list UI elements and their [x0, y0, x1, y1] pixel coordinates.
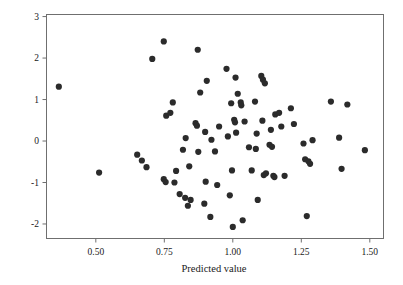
data-point	[269, 144, 275, 150]
data-point	[167, 110, 173, 116]
data-point	[229, 167, 235, 173]
data-point	[201, 201, 207, 207]
data-point	[300, 140, 306, 146]
data-point	[208, 137, 214, 143]
data-point	[203, 179, 209, 185]
data-point	[207, 214, 213, 220]
data-point	[96, 169, 102, 175]
data-point	[216, 123, 222, 129]
data-point	[255, 197, 261, 203]
data-point	[328, 99, 334, 105]
data-point	[232, 119, 238, 125]
data-point	[253, 146, 259, 152]
data-point	[170, 99, 176, 105]
data-point	[268, 127, 274, 133]
data-point	[186, 163, 192, 169]
plot-canvas: 0.500.751.001.251.50 3210-1-2 Predicted …	[0, 0, 403, 285]
data-point	[291, 121, 297, 127]
x-axis-ticks: 0.500.751.001.251.50	[88, 239, 379, 257]
x-axis-title: Predicted value	[181, 263, 246, 274]
data-point	[171, 179, 177, 185]
data-point	[307, 161, 313, 167]
x-tick-label: 1.50	[361, 247, 378, 257]
data-point	[227, 192, 233, 198]
data-point	[56, 84, 62, 90]
data-point	[139, 157, 145, 163]
data-point	[288, 105, 294, 111]
data-point	[241, 118, 247, 124]
data-point	[240, 217, 246, 223]
y-tick-label: 3	[34, 12, 39, 22]
data-point	[185, 203, 191, 209]
data-point	[338, 166, 344, 172]
data-points-layer	[56, 38, 368, 230]
data-point	[180, 147, 186, 153]
data-point	[188, 197, 194, 203]
y-tick-label: 2	[34, 53, 39, 63]
y-tick-label: -2	[31, 219, 39, 229]
x-tick-label: 0.75	[156, 247, 173, 257]
data-point	[228, 100, 234, 106]
data-point	[344, 101, 350, 107]
data-point	[304, 213, 310, 219]
scatter-plot-figure: 0.500.751.001.251.50 3210-1-2 Predicted …	[0, 0, 403, 285]
data-point	[195, 47, 201, 53]
data-point	[232, 74, 238, 80]
data-point	[183, 135, 189, 141]
data-point	[173, 168, 179, 174]
y-axis-ticks: 3210-1-2	[31, 12, 46, 229]
data-point	[182, 195, 188, 201]
data-point	[336, 135, 342, 141]
data-point	[259, 118, 265, 124]
data-point	[254, 130, 260, 136]
data-point	[212, 148, 218, 154]
data-point	[230, 224, 236, 230]
plot-frame	[47, 15, 384, 239]
x-tick-label: 1.00	[224, 247, 241, 257]
data-point	[194, 123, 200, 129]
data-point	[278, 123, 284, 129]
data-point	[204, 78, 210, 84]
data-point	[177, 191, 183, 197]
data-point	[309, 137, 315, 143]
y-tick-label: 0	[34, 136, 39, 146]
data-point	[149, 56, 155, 62]
data-point	[197, 89, 203, 95]
y-tick-label: -1	[31, 178, 39, 188]
data-point	[238, 102, 244, 108]
data-point	[202, 129, 208, 135]
data-point	[262, 80, 268, 86]
data-point	[134, 152, 140, 158]
plot-border	[47, 15, 384, 239]
data-point	[249, 167, 255, 173]
data-point	[214, 182, 220, 188]
data-point	[143, 164, 149, 170]
data-point	[271, 174, 277, 180]
data-point	[195, 149, 201, 155]
data-point	[163, 179, 169, 185]
data-point	[246, 144, 252, 150]
data-point	[276, 110, 282, 116]
data-point	[263, 170, 269, 176]
data-point	[223, 66, 229, 72]
data-point	[161, 38, 167, 44]
data-point	[225, 133, 231, 139]
x-tick-label: 1.25	[293, 247, 310, 257]
data-point	[281, 173, 287, 179]
data-point	[252, 99, 258, 105]
y-tick-label: 1	[34, 95, 39, 105]
x-tick-label: 0.50	[88, 247, 105, 257]
data-point	[235, 91, 241, 97]
data-point	[233, 130, 239, 136]
data-point	[362, 147, 368, 153]
